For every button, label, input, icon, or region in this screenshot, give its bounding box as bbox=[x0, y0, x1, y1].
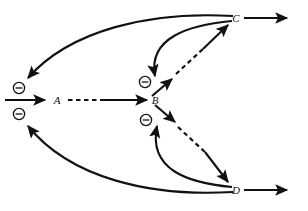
edge-B-to-D bbox=[155, 105, 228, 182]
inhibition-marker-minus-A-upper bbox=[13, 82, 24, 93]
node-label-D: D bbox=[231, 184, 240, 196]
inhibition-marker-minus-B-upper bbox=[139, 76, 150, 87]
edge-C-inhibits-B bbox=[154, 21, 232, 76]
inhibition-marker-minus-B-lower bbox=[140, 114, 151, 125]
edge-B-to-C bbox=[152, 25, 228, 96]
inhibition-marker-minus-A-lower bbox=[13, 108, 24, 119]
edge-D-inhibits-B bbox=[156, 126, 232, 187]
network-diagram-svg: A B C D bbox=[0, 0, 308, 211]
node-label-C: C bbox=[232, 12, 240, 24]
node-label-A: A bbox=[53, 94, 61, 106]
node-label-B: B bbox=[152, 94, 159, 106]
diagram-canvas: A B C D bbox=[0, 0, 308, 211]
